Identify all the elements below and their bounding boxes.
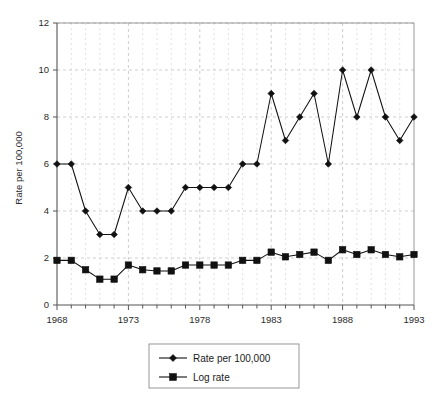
- y-tick-label: 12: [38, 17, 49, 28]
- data-point-square: [111, 276, 117, 282]
- x-tick-label: 1988: [332, 314, 353, 325]
- y-tick-label: 8: [44, 111, 49, 122]
- data-point-square: [397, 254, 403, 260]
- x-tick-label: 1983: [261, 314, 282, 325]
- x-tick-label: 1978: [189, 314, 210, 325]
- legend-label-2[interactable]: Log rate: [193, 372, 230, 383]
- data-point-square: [382, 251, 388, 257]
- data-point-square: [368, 247, 374, 253]
- data-point-square: [197, 262, 203, 268]
- data-point-square: [82, 267, 88, 273]
- data-point-square: [411, 251, 417, 257]
- data-point-square: [168, 268, 174, 274]
- legend-square-icon: [170, 374, 177, 381]
- data-point-square: [54, 257, 60, 263]
- y-tick-label: 6: [44, 158, 49, 169]
- data-point-square: [297, 251, 303, 257]
- data-point-square: [239, 257, 245, 263]
- data-point-square: [325, 257, 331, 263]
- data-point-square: [282, 254, 288, 260]
- chart-background: [0, 0, 448, 402]
- data-point-square: [97, 276, 103, 282]
- legend-label-1[interactable]: Rate per 100,000: [193, 353, 271, 364]
- y-tick-label: 4: [44, 205, 49, 216]
- y-tick-label: 10: [38, 64, 49, 75]
- data-point-square: [139, 267, 145, 273]
- x-tick-label: 1993: [403, 314, 424, 325]
- data-point-square: [339, 247, 345, 253]
- x-tick-label: 1973: [118, 314, 139, 325]
- data-point-square: [354, 251, 360, 257]
- chart-legend: Rate per 100,000Log rate: [149, 344, 299, 388]
- data-point-square: [68, 257, 74, 263]
- data-point-square: [268, 249, 274, 255]
- data-point-square: [254, 257, 260, 263]
- y-axis-title: Rate per 100,000: [13, 131, 24, 204]
- data-point-square: [182, 262, 188, 268]
- data-point-square: [311, 249, 317, 255]
- data-point-square: [211, 262, 217, 268]
- chart-figure: 024681012 196819731978198319881993 Rate …: [0, 0, 448, 402]
- y-tick-label: 0: [44, 299, 49, 310]
- data-point-square: [225, 262, 231, 268]
- data-point-square: [125, 262, 131, 268]
- y-tick-label: 2: [44, 252, 49, 263]
- line-chart: 024681012 196819731978198319881993 Rate …: [0, 0, 448, 402]
- x-tick-label: 1968: [46, 314, 67, 325]
- data-point-square: [154, 268, 160, 274]
